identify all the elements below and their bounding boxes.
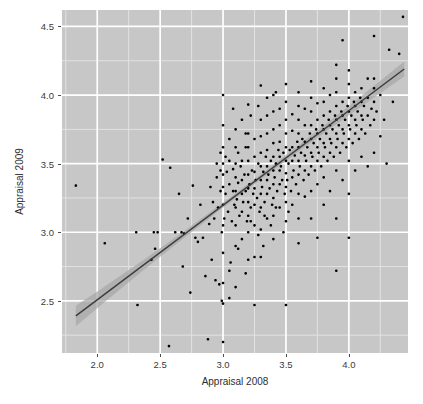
x-tick-label: 2.0	[91, 359, 104, 370]
y-tick-label: 3.0	[28, 227, 54, 238]
grid-major	[62, 10, 408, 353]
plot-canvas	[62, 10, 408, 353]
data-points	[75, 16, 405, 348]
plot-panel	[62, 10, 408, 353]
x-tick-mark	[286, 354, 287, 357]
x-tick-mark	[223, 354, 224, 357]
y-tick-label: 2.5	[28, 295, 54, 306]
x-tick-label: 2.5	[154, 359, 167, 370]
y-tick-mark	[58, 232, 61, 233]
x-axis-title: Appraisal 2008	[62, 376, 408, 387]
y-tick-label: 4.0	[28, 90, 54, 101]
x-tick-label: 3.0	[216, 359, 229, 370]
y-tick-mark	[58, 26, 61, 27]
y-tick-label: 4.5	[28, 21, 54, 32]
x-tick-label: 4.0	[342, 359, 355, 370]
y-axis-title: Appraisal 2009	[14, 10, 28, 353]
regression-line	[76, 69, 404, 316]
y-tick-mark	[58, 95, 61, 96]
y-tick-mark	[58, 164, 61, 165]
x-tick-label: 3.5	[279, 359, 292, 370]
y-tick-label: 3.5	[28, 158, 54, 169]
scatter-plot-figure: 2.53.03.54.04.5 2.02.53.03.54.0 Appraisa…	[0, 0, 423, 404]
y-tick-mark	[58, 301, 61, 302]
x-tick-mark	[349, 354, 350, 357]
x-tick-mark	[97, 354, 98, 357]
x-tick-mark	[160, 354, 161, 357]
